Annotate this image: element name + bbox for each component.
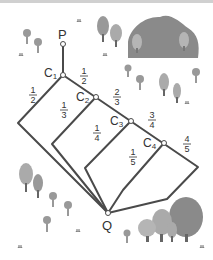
svg-text:1: 1: [61, 100, 66, 110]
node-p: [61, 42, 66, 47]
svg-text:5: 5: [130, 157, 135, 167]
node-c4: [162, 141, 167, 146]
cut-off-header-text: [0, 0, 213, 3]
label-q: Q: [102, 218, 112, 233]
svg-text:3: 3: [114, 97, 119, 107]
svg-text:3: 3: [61, 110, 66, 120]
fraction-c1-right: 1 2: [80, 66, 88, 86]
fraction-c3-left: 1 4: [93, 123, 101, 143]
fraction-c1-left: 1 2: [29, 85, 37, 105]
probability-path-diagram: P C1 C2 C3 C4 Q 1 2 1 2 1 3 2 3 1 4 3 4 …: [0, 0, 213, 260]
node-c2: [94, 95, 99, 100]
fraction-c2-left: 1 3: [60, 100, 68, 120]
svg-text:2: 2: [114, 87, 119, 97]
svg-text:4: 4: [149, 120, 154, 130]
svg-text:1: 1: [130, 147, 135, 157]
node-c1: [61, 73, 66, 78]
fraction-c4-left: 1 5: [129, 147, 137, 167]
svg-text:1: 1: [30, 85, 35, 95]
label-p: P: [58, 27, 67, 42]
svg-text:2: 2: [81, 76, 86, 86]
svg-text:4: 4: [184, 134, 189, 144]
svg-text:1: 1: [94, 123, 99, 133]
tree-decoration-bottom-left: [19, 163, 43, 198]
svg-text:1: 1: [81, 66, 86, 76]
label-c3: C3: [110, 114, 124, 129]
svg-text:2: 2: [30, 95, 35, 105]
node-q: [106, 211, 111, 216]
fraction-c2-right: 2 3: [113, 87, 121, 107]
hill-decoration: [128, 16, 199, 58]
label-c1: C1: [44, 66, 58, 81]
svg-text:3: 3: [149, 110, 154, 120]
fraction-c4-right: 4 5: [183, 134, 191, 154]
edge-c3-left: [85, 121, 131, 213]
svg-text:5: 5: [184, 144, 189, 154]
svg-text:4: 4: [94, 133, 99, 143]
fraction-c3-right: 3 4: [148, 110, 156, 130]
node-c3: [129, 119, 134, 124]
